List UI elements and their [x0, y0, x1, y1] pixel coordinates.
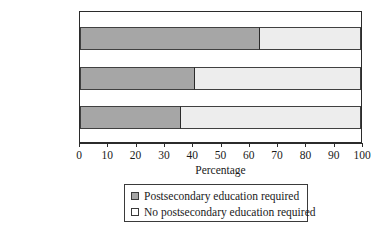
category-axis: Upstream Midstream Downstream	[79, 11, 362, 143]
x-axis-tick	[221, 143, 222, 147]
stacked-bar-chart: Upstream Midstream Downstream 0102030405…	[0, 0, 383, 233]
legend-label-no-postsecondary: No postsecondary education required	[144, 206, 315, 219]
x-axis-tick	[164, 143, 165, 147]
x-axis-title: Percentage	[79, 164, 362, 177]
x-axis-tick	[136, 143, 137, 147]
legend-item-postsecondary: Postsecondary education required	[131, 188, 307, 204]
x-axis-tick	[249, 143, 250, 147]
x-axis-tick	[305, 143, 306, 147]
empty-square-icon	[131, 208, 139, 216]
x-axis-tick-label: 100	[342, 149, 382, 162]
x-axis-tick	[277, 143, 278, 147]
filled-gray-square-icon	[131, 192, 139, 200]
legend-item-no-postsecondary: No postsecondary education required	[131, 204, 307, 220]
x-axis-tick	[107, 143, 108, 147]
x-axis-tick	[79, 143, 80, 147]
x-axis-tick	[192, 143, 193, 147]
legend-label-postsecondary: Postsecondary education required	[144, 190, 299, 203]
x-axis: 0102030405060708090100	[79, 143, 362, 144]
x-axis-tick	[362, 143, 363, 147]
legend: Postsecondary education required No post…	[124, 184, 308, 222]
x-axis-tick	[334, 143, 335, 147]
